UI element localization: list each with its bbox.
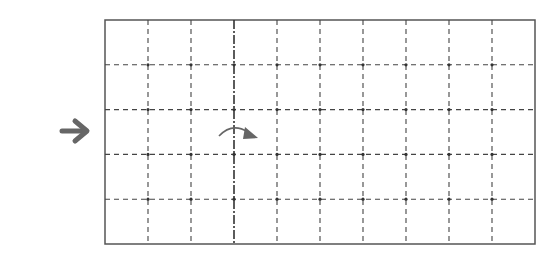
grid <box>105 20 535 244</box>
grid-intersection <box>404 63 407 66</box>
grid-intersection <box>146 198 149 201</box>
grid-intersection <box>146 153 149 156</box>
grid-intersection <box>275 108 278 111</box>
grid-intersection <box>447 198 450 201</box>
diagram-canvas <box>0 0 557 257</box>
grid-intersection <box>318 198 321 201</box>
grid-intersection <box>318 63 321 66</box>
grid-intersection <box>404 108 407 111</box>
grid-intersection <box>189 198 192 201</box>
grid-intersection <box>232 198 235 201</box>
grid-intersection <box>490 108 493 111</box>
grid-intersection <box>146 108 149 111</box>
grid-intersection <box>361 153 364 156</box>
grid-intersection <box>189 108 192 111</box>
grid-intersection <box>361 63 364 66</box>
grid-intersection <box>318 108 321 111</box>
right-arrow-icon <box>62 121 87 141</box>
grid-intersection <box>189 153 192 156</box>
grid-intersection <box>189 63 192 66</box>
grid-intersection <box>146 63 149 66</box>
grid-intersection <box>447 63 450 66</box>
grid-intersection <box>404 198 407 201</box>
grid-intersection <box>447 153 450 156</box>
grid-intersection <box>232 153 235 156</box>
grid-intersection <box>404 153 407 156</box>
grid-intersection <box>490 153 493 156</box>
grid-intersection <box>361 198 364 201</box>
grid-intersection <box>318 153 321 156</box>
grid-intersection <box>447 108 450 111</box>
grid-intersection <box>232 108 235 111</box>
grid-intersection <box>275 153 278 156</box>
grid-intersection <box>490 198 493 201</box>
grid-intersection <box>275 198 278 201</box>
grid-intersection <box>490 63 493 66</box>
grid-intersection <box>275 63 278 66</box>
grid-intersection <box>232 63 235 66</box>
grid-intersection <box>361 108 364 111</box>
curved-arrow-icon <box>219 127 258 139</box>
